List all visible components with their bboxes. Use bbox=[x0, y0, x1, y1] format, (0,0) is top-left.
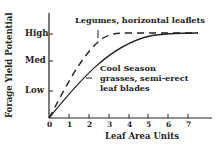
y-tick-label-low: Low bbox=[25, 86, 44, 95]
x-axis-label: Leaf Area Units bbox=[105, 132, 179, 141]
x-tick-label-6: 6 bbox=[166, 121, 171, 129]
x-tick-label-1: 1 bbox=[67, 121, 72, 129]
x-tick-label-0: 0 bbox=[47, 121, 52, 129]
grass-annotation-line-3: leaf blades bbox=[100, 84, 189, 94]
x-tick-label-3: 3 bbox=[107, 121, 112, 129]
x-tick-label-4: 4 bbox=[127, 121, 132, 129]
y-tick-label-med: Med bbox=[25, 56, 46, 65]
grass-annotation: Cool Season grasses, semi-erect leaf bla… bbox=[100, 64, 189, 93]
x-tick-label-7: 7 bbox=[186, 121, 191, 129]
x-tick-label-2: 2 bbox=[87, 121, 92, 129]
x-tick-label-5: 5 bbox=[146, 121, 151, 129]
legume-annotation: Legumes, horizontal leaflets bbox=[75, 16, 205, 26]
y-tick-label-high: High bbox=[25, 29, 48, 38]
y-axis-label: Forage Yield Potential bbox=[4, 13, 14, 118]
